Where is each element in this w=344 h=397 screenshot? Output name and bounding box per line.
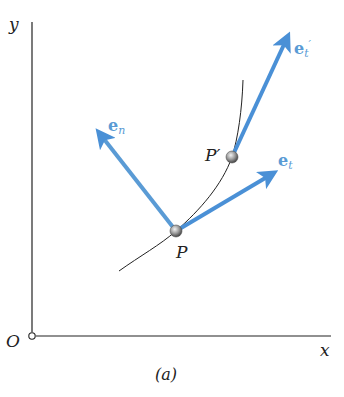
figure-caption: (a) [155, 365, 177, 384]
point-p-prime-label: P′ [204, 145, 220, 165]
particle-p-prime [226, 151, 238, 163]
x-axis-label: x [320, 340, 330, 360]
axes [29, 22, 331, 339]
point-p-label: P [175, 242, 188, 262]
origin-marker [29, 333, 35, 339]
unit-vectors [100, 38, 287, 231]
e-n-vector-arrow [100, 134, 176, 231]
e-t-prime-vector-arrow [232, 38, 287, 157]
e-t-vector-arrow [176, 174, 272, 231]
y-axis-label: y [8, 14, 19, 34]
e-t-prime-label: et′ [294, 38, 312, 60]
e-t-label: et [278, 151, 293, 172]
e-n-label: en [108, 116, 125, 137]
path-diagram: y x O P P′ en et et′ (a) [0, 0, 344, 397]
particle-p [170, 225, 182, 237]
origin-label: O [6, 331, 20, 351]
